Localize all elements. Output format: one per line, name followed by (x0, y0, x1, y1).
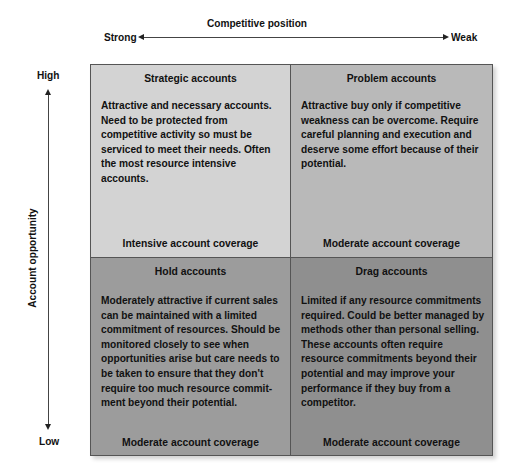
quadrant-title: Hold accounts (101, 265, 280, 277)
quadrant-coverage: Moderate account coverage (301, 237, 482, 249)
quadrant-description: Moderately attractive if current sales c… (101, 293, 286, 410)
quadrant-coverage: Moderate account coverage (101, 436, 280, 448)
quadrant-strategic-accounts: Strategic accounts Attractive and necess… (91, 65, 291, 258)
quadrant-problem-accounts: Problem accounts Attractive buy only if … (291, 65, 492, 258)
quadrant-coverage: Intensive account coverage (101, 237, 280, 249)
quadrant-description: Limited if any resource commitments requ… (301, 293, 486, 410)
x-axis-right-label: Weak (451, 31, 477, 43)
arrow-right-icon (443, 34, 449, 40)
quadrant-title: Drag accounts (301, 265, 482, 277)
y-axis-bottom-label: Low (39, 435, 59, 447)
x-axis-left-label: Strong (104, 31, 137, 43)
y-axis-top-label: High (37, 69, 59, 81)
y-axis-title: Account opportunity (26, 208, 38, 308)
arrow-down-icon (45, 424, 51, 430)
x-axis-title: Competitive position (31, 17, 483, 29)
quadrant-drag-accounts: Drag accounts Limited if any resource co… (291, 258, 492, 455)
x-axis-arrow (142, 37, 445, 38)
quadrant-title: Problem accounts (301, 72, 482, 84)
y-axis-arrow (48, 93, 49, 426)
quadrant-matrix: Strategic accounts Attractive and necess… (90, 64, 493, 456)
arrow-up-icon (45, 89, 51, 95)
quadrant-title: Strategic accounts (101, 72, 280, 84)
quadrant-coverage: Moderate account coverage (301, 436, 482, 448)
arrow-left-icon (138, 34, 144, 40)
quadrant-description: Attractive and necessary accounts. Need … (101, 98, 286, 186)
quadrant-description: Attractive buy only if competitive weakn… (301, 98, 486, 171)
quadrant-hold-accounts: Hold accounts Moderately attractive if c… (91, 258, 291, 455)
